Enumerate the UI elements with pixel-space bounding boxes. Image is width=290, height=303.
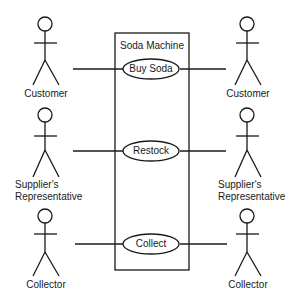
actor-label-collector-right: Collector [228,279,268,290]
actor-customer-left [33,17,59,85]
actor-collector-left [33,209,59,276]
actor-label-customer-left: Customer [24,88,68,99]
actor-label-supplier-right-line1: Supplier's [218,179,262,190]
actor-customer-right [235,17,261,85]
use-case-diagram: Soda Machine Buy Soda Restock Collect Cu… [0,0,290,303]
actor-label-collector-left: Collector [26,279,66,290]
actor-suppliers-representative-left [33,108,59,177]
system-label: Soda Machine [120,40,184,51]
actor-label-supplier-left-line2: Representative [15,191,83,202]
actor-label-supplier-right-line2: Representative [218,191,286,202]
actor-suppliers-representative-right [235,108,261,177]
actor-collector-right [235,209,261,276]
use-case-label-collect: Collect [136,238,167,249]
use-case-label-buy-soda: Buy Soda [129,63,173,74]
actor-label-customer-right: Customer [226,88,270,99]
use-case-label-restock: Restock [133,145,170,156]
actor-label-supplier-left-line1: Supplier's [15,179,59,190]
